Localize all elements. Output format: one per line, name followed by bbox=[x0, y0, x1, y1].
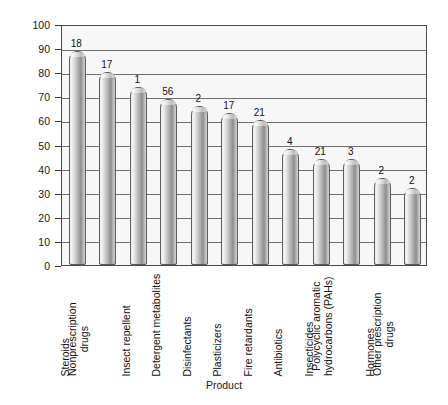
gridline bbox=[62, 50, 426, 51]
bar bbox=[252, 120, 269, 265]
y-axis-tick bbox=[55, 266, 61, 267]
x-axis-title: Product bbox=[0, 379, 448, 391]
y-axis-tick-label: 10 bbox=[0, 237, 50, 247]
bar bbox=[343, 159, 360, 265]
bar-value-label: 4 bbox=[270, 137, 310, 147]
gridline bbox=[62, 98, 426, 99]
bar-value-label: 21 bbox=[239, 108, 279, 118]
bar-chart-figure: Detection frequency (percent of samples)… bbox=[0, 0, 448, 405]
bar bbox=[313, 159, 330, 265]
bar-value-label: 2 bbox=[392, 176, 432, 186]
y-axis-tick-label: 30 bbox=[0, 189, 50, 199]
y-axis-tick-label: 90 bbox=[0, 44, 50, 54]
gridline bbox=[62, 194, 426, 195]
bar bbox=[282, 149, 299, 265]
bar-value-label: 18 bbox=[56, 39, 96, 49]
bar bbox=[160, 99, 177, 265]
y-axis-tick-label: 80 bbox=[0, 68, 50, 78]
bar bbox=[374, 178, 391, 265]
bar-value-label: 17 bbox=[87, 60, 127, 70]
y-axis-tick-label: 100 bbox=[0, 20, 50, 30]
y-axis-tick-label: 20 bbox=[0, 213, 50, 223]
bar-value-label: 3 bbox=[331, 147, 371, 157]
bar bbox=[191, 106, 208, 265]
gridline bbox=[62, 218, 426, 219]
gridline bbox=[62, 122, 426, 123]
y-axis-tick-label: 70 bbox=[0, 92, 50, 102]
bar-value-label: 1 bbox=[117, 75, 157, 85]
y-axis-tick-label: 40 bbox=[0, 165, 50, 175]
bar bbox=[69, 51, 86, 265]
bar bbox=[130, 87, 147, 265]
bar bbox=[404, 188, 421, 265]
bar-value-label: 2 bbox=[361, 166, 401, 176]
gridline bbox=[62, 146, 426, 147]
bar bbox=[221, 113, 238, 265]
bar bbox=[99, 72, 116, 265]
gridline bbox=[62, 242, 426, 243]
y-axis-tick-label: 60 bbox=[0, 116, 50, 126]
y-axis-tick-label: 50 bbox=[0, 141, 50, 151]
y-axis-tick-label: 0 bbox=[0, 261, 50, 271]
